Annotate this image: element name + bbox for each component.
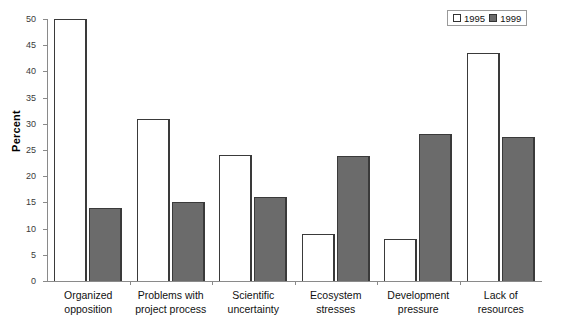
y-tick: 5 [43, 255, 47, 256]
x-axis-label-line: project process [130, 302, 213, 316]
bar-1995-5 [467, 53, 500, 281]
x-tick [295, 281, 296, 285]
x-tick [130, 281, 131, 285]
x-axis-label-line: Ecosystem [295, 288, 378, 302]
bar-chart: Percent 05101520253035404550 Organizedop… [0, 0, 564, 335]
legend-label-1999: 1999 [500, 13, 521, 24]
bar-1995-2 [219, 155, 252, 281]
legend-entry-1999: 1999 [489, 13, 521, 24]
bar-1995-1 [137, 119, 170, 281]
x-tick [212, 281, 213, 285]
y-tick: 35 [43, 98, 47, 99]
bar-1995-0 [54, 19, 87, 281]
x-axis-label-line: Scientific [212, 288, 295, 302]
plot-area: 05101520253035404550 [47, 19, 542, 281]
legend-entry-1995: 1995 [453, 13, 485, 24]
x-tick [460, 281, 461, 285]
x-axis-label-line: pressure [377, 302, 460, 316]
bar-1999-4 [419, 134, 452, 281]
legend-swatch-icon-1995 [453, 14, 461, 22]
x-axis-label-line: Problems with [130, 288, 213, 302]
x-axis-label-line: resources [460, 302, 543, 316]
bar-1995-4 [384, 239, 417, 281]
y-tick-label: 5 [31, 250, 36, 260]
x-axis-label-line: Lack of [460, 288, 543, 302]
legend-label-1995: 1995 [464, 13, 485, 24]
bar-1999-2 [254, 197, 287, 281]
legend-swatch-icon-1999 [489, 14, 497, 22]
y-tick-label: 45 [26, 40, 36, 50]
x-axis-label-1: Problems withproject process [130, 288, 213, 316]
y-tick: 50 [43, 19, 47, 20]
x-axis-label-2: Scientificuncertainty [212, 288, 295, 316]
y-tick: 40 [43, 71, 47, 72]
y-tick-label: 35 [26, 93, 36, 103]
y-tick: 25 [43, 150, 47, 151]
y-tick-label: 20 [26, 171, 36, 181]
y-tick: 15 [43, 202, 47, 203]
x-axis-label-line: Development [377, 288, 460, 302]
x-axis-label-line: opposition [47, 302, 130, 316]
y-tick: 20 [43, 176, 47, 177]
x-axis-label-line: stresses [295, 302, 378, 316]
y-tick-label: 30 [26, 119, 36, 129]
bar-1999-0 [89, 208, 122, 281]
y-tick-label: 50 [26, 14, 36, 24]
bar-1999-1 [172, 202, 205, 281]
x-axis-label-3: Ecosystemstresses [295, 288, 378, 316]
x-axis-label-5: Lack ofresources [460, 288, 543, 316]
y-tick: 45 [43, 45, 47, 46]
y-axis-title: Percent [10, 91, 22, 171]
y-tick: 0 [43, 281, 47, 282]
y-axis-line [47, 19, 48, 281]
y-tick-label: 25 [26, 145, 36, 155]
y-tick: 10 [43, 229, 47, 230]
x-axis-label-line: Organized [47, 288, 130, 302]
y-tick-label: 10 [26, 224, 36, 234]
bar-1999-3 [337, 156, 370, 281]
x-tick [377, 281, 378, 285]
bar-1999-5 [502, 137, 535, 281]
x-axis-label-line: uncertainty [212, 302, 295, 316]
y-tick-label: 15 [26, 197, 36, 207]
chart-legend: 1995 1999 [447, 10, 527, 26]
x-axis-label-0: Organizedopposition [47, 288, 130, 316]
y-tick-label: 40 [26, 66, 36, 76]
y-tick: 30 [43, 124, 47, 125]
bar-1995-3 [302, 234, 335, 281]
x-axis-label-4: Developmentpressure [377, 288, 460, 316]
y-tick-label: 0 [31, 276, 36, 286]
